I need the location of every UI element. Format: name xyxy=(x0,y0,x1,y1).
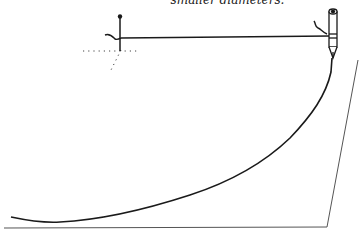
dotted-guides xyxy=(83,50,137,70)
string xyxy=(105,21,330,39)
pin-icon xyxy=(118,14,122,51)
pin-string-diagram xyxy=(0,0,359,238)
pen-icon xyxy=(329,9,337,58)
traced-curve xyxy=(11,58,332,222)
paper-outline xyxy=(4,60,358,228)
